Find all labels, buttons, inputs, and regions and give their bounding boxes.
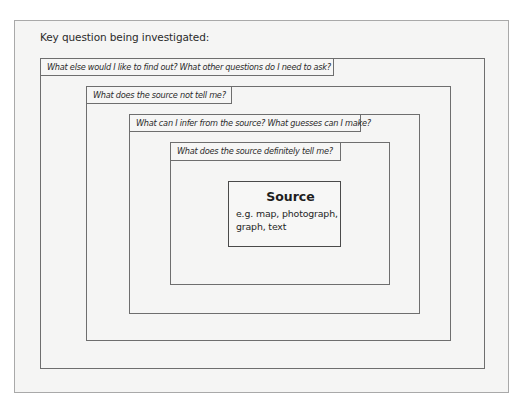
- source-box: Source e.g. map, photograph, graph, text: [228, 181, 341, 247]
- layer-label: What else would I like to find out? What…: [40, 58, 334, 76]
- layer-label: What does the source not tell me?: [86, 86, 232, 104]
- layer-label: What does the source definitely tell me?: [170, 142, 341, 161]
- source-description: e.g. map, photograph, graph, text: [236, 207, 340, 233]
- source-title: Source: [229, 189, 340, 204]
- layer-label: What can I infer from the source? What g…: [129, 114, 361, 132]
- key-question-heading: Key question being investigated:: [40, 31, 209, 43]
